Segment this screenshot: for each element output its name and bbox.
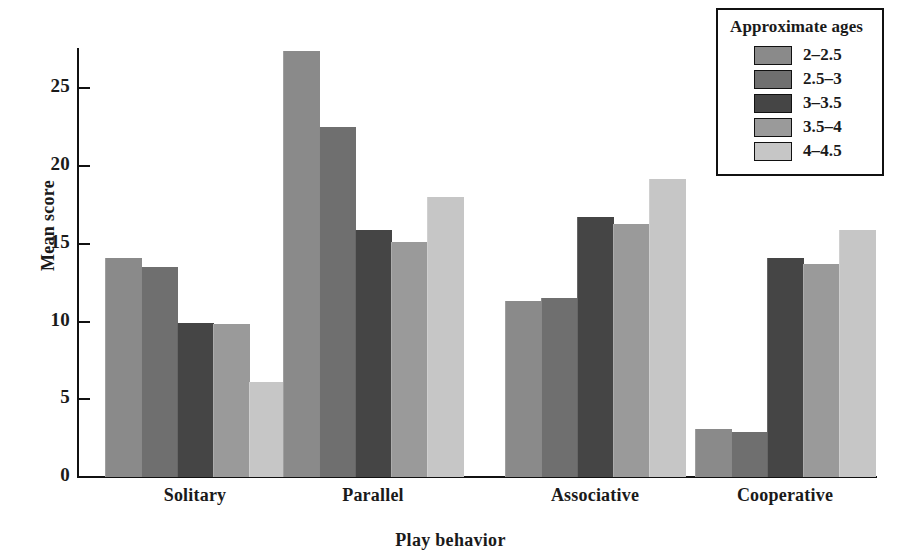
legend-entries: 2–2.52.5–33–3.53.5–44–4.5 xyxy=(728,43,872,163)
bar[interactable] xyxy=(731,432,768,477)
x-axis-category-label: Cooperative xyxy=(695,485,875,506)
bar[interactable] xyxy=(541,298,578,477)
bar[interactable] xyxy=(141,267,178,477)
legend-color-swatch xyxy=(754,70,792,89)
bar[interactable] xyxy=(767,258,804,477)
bar[interactable] xyxy=(427,197,464,477)
legend-color-swatch xyxy=(754,118,792,137)
bar[interactable] xyxy=(695,429,732,477)
bar-group-associative: Associative xyxy=(505,48,685,477)
legend-item[interactable]: 2–2.5 xyxy=(754,43,872,67)
legend: Approximate ages 2–2.52.5–33–3.53.5–44–4… xyxy=(716,8,884,176)
bar-group-parallel: Parallel xyxy=(283,48,463,477)
y-tick-label: 0 xyxy=(34,464,70,486)
legend-color-swatch xyxy=(754,142,792,161)
legend-item-label: 3–3.5 xyxy=(803,93,842,113)
bar[interactable] xyxy=(249,382,286,477)
bar[interactable] xyxy=(355,230,392,477)
bar[interactable] xyxy=(391,242,428,477)
x-axis-category-label: Associative xyxy=(505,485,685,506)
y-tick-label: 5 xyxy=(34,386,70,408)
legend-color-swatch xyxy=(754,94,792,113)
x-axis-category-label: Solitary xyxy=(105,485,285,506)
bar[interactable] xyxy=(803,264,840,477)
bar-chart: Mean score 0510152025 SolitaryParallelAs… xyxy=(0,0,901,560)
legend-title: Approximate ages xyxy=(730,17,872,37)
bar[interactable] xyxy=(105,258,142,477)
legend-item[interactable]: 3–3.5 xyxy=(754,91,872,115)
legend-item-label: 2.5–3 xyxy=(803,69,842,89)
y-tick-label: 20 xyxy=(34,153,70,175)
bar[interactable] xyxy=(649,179,686,477)
bar-group-solitary: Solitary xyxy=(105,48,285,477)
legend-item-label: 4–4.5 xyxy=(803,141,842,161)
y-tick-label: 15 xyxy=(34,231,70,253)
bar[interactable] xyxy=(839,230,876,477)
bar[interactable] xyxy=(283,51,320,477)
x-axis-title: Play behavior xyxy=(0,530,901,551)
legend-color-swatch xyxy=(754,46,792,65)
legend-item[interactable]: 3.5–4 xyxy=(754,115,872,139)
legend-item-label: 2–2.5 xyxy=(803,45,842,65)
y-tick-label: 25 xyxy=(34,75,70,97)
y-tick-label: 10 xyxy=(34,309,70,331)
legend-item-label: 3.5–4 xyxy=(803,117,842,137)
x-axis-category-label: Parallel xyxy=(283,485,463,506)
bar[interactable] xyxy=(505,301,542,477)
bar[interactable] xyxy=(319,127,356,477)
legend-item[interactable]: 2.5–3 xyxy=(754,67,872,91)
bar[interactable] xyxy=(613,224,650,477)
bar[interactable] xyxy=(577,217,614,477)
bar[interactable] xyxy=(177,323,214,477)
bar[interactable] xyxy=(213,324,250,477)
legend-item[interactable]: 4–4.5 xyxy=(754,139,872,163)
